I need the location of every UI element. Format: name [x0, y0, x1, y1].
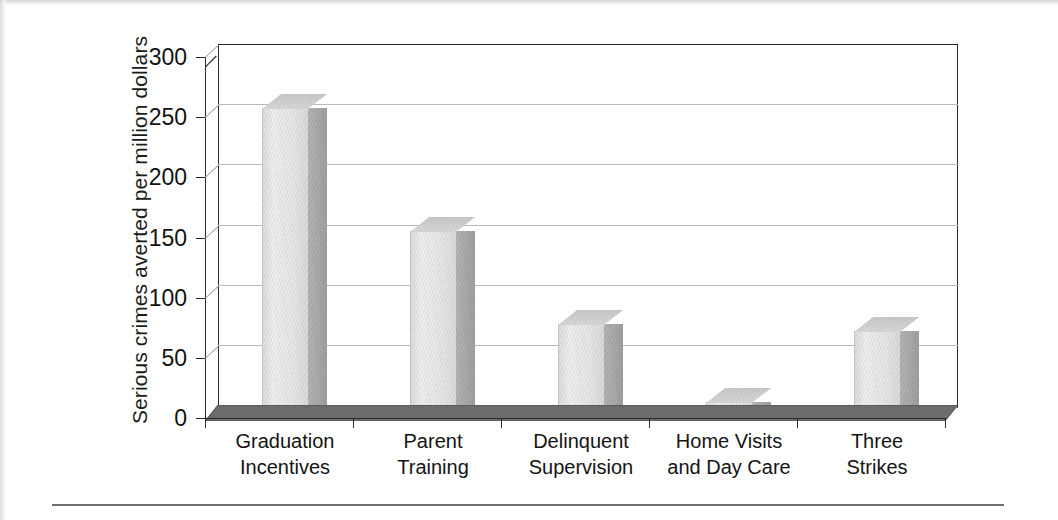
gridline-depth-connector — [205, 105, 219, 118]
x-axis-tick-mark — [353, 418, 354, 428]
x-axis-category-label: GraduationIncentives — [236, 428, 335, 480]
y-axis-tick-mark — [196, 177, 205, 178]
figure-bottom-rule — [52, 504, 1004, 506]
bar — [558, 324, 604, 418]
gridline — [218, 285, 958, 286]
bar-side-face — [456, 231, 475, 418]
bar — [262, 108, 308, 418]
plot-area — [205, 44, 958, 418]
y-axis-tick-labels: 050100150200250300 — [125, 0, 187, 520]
bar-side-face — [604, 324, 623, 418]
x-axis-category-label-line: Graduation — [236, 428, 335, 454]
y-axis-tick-label: 250 — [125, 104, 187, 131]
bar-front-face — [410, 231, 457, 418]
x-axis-category-label-line: Strikes — [846, 454, 907, 480]
y-axis-tick-label: 50 — [125, 344, 187, 371]
x-axis-category-label: ParentTraining — [397, 428, 469, 480]
y-axis-tick-mark — [196, 57, 205, 58]
bar-chart-figure: Serious crimes averted per million dolla… — [0, 0, 1058, 520]
x-axis-category-label-line: Training — [397, 454, 469, 480]
x-axis-category-labels: GraduationIncentivesParentTrainingDelinq… — [205, 428, 958, 498]
y-axis-tick-label: 200 — [125, 164, 187, 191]
y-axis-tick-mark — [196, 117, 205, 118]
x-axis-tick-mark — [797, 418, 798, 428]
bar — [410, 231, 456, 418]
gridline — [218, 225, 958, 226]
x-axis-category-label-line: Three — [846, 428, 907, 454]
x-axis-category-label: ThreeStrikes — [846, 428, 907, 480]
gridline-depth-connector — [205, 346, 219, 359]
x-axis-tick-mark — [501, 418, 502, 428]
x-axis-category-label-line: Parent — [397, 428, 469, 454]
x-axis-tick-mark — [649, 418, 650, 428]
gridline-depth-connector — [205, 165, 219, 178]
bar-side-face — [308, 108, 327, 418]
gridline-depth-connector — [205, 225, 219, 238]
gridline — [218, 104, 958, 105]
axis-depth-connector-icon — [205, 56, 220, 70]
x-axis-category-label: Home Visitsand Day Care — [667, 428, 790, 480]
y-axis-tick-label: 0 — [125, 405, 187, 432]
x-axis-tick-mark — [205, 418, 206, 428]
x-axis-category-label-line: Home Visits — [667, 428, 790, 454]
bar-front-face — [558, 324, 605, 418]
y-axis-tick-label: 300 — [125, 44, 187, 71]
gridline-depth-connector — [205, 285, 219, 298]
x-axis-category-label-line: Supervision — [529, 454, 634, 480]
x-axis-tick-mark — [945, 418, 946, 428]
x-axis-line — [205, 418, 945, 419]
y-axis-tick-label: 100 — [125, 284, 187, 311]
y-axis-tick-label: 150 — [125, 224, 187, 251]
x-axis-category-label-line: Incentives — [236, 454, 335, 480]
x-axis-category-label-line: Delinquent — [529, 428, 634, 454]
bar-front-face — [262, 108, 309, 418]
x-axis-category-label-line: and Day Care — [667, 454, 790, 480]
gridline — [218, 164, 958, 165]
x-axis-category-label: DelinquentSupervision — [529, 428, 634, 480]
y-axis-tick-mark — [196, 418, 205, 419]
